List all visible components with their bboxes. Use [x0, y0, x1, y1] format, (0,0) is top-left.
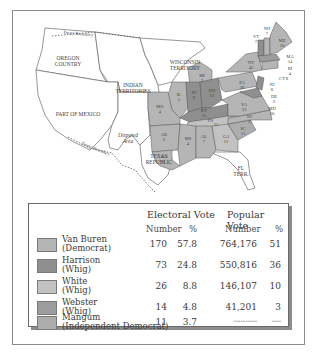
candidate-harrison: Harrison(Whig) — [62, 256, 100, 274]
state-ev-nj: 8 — [271, 87, 274, 92]
state-ev-vt: 7 — [255, 39, 258, 44]
pv-percent: 51 — [265, 239, 281, 249]
state-vt — [258, 40, 264, 56]
pv-percent: 36 — [265, 260, 281, 270]
state-ev-nc: 15 — [248, 119, 253, 124]
legend-row-white: White(Whig) 26 8.8 146,107 10 — [29, 278, 288, 298]
label-texas-2: REPUBLIC — [146, 159, 173, 165]
ev-number: 170 — [147, 239, 167, 249]
candidate-white: White(Whig) — [62, 277, 91, 295]
ev-number: 14 — [147, 302, 167, 312]
state-ev-de: 3 — [273, 99, 276, 104]
pv-percent: 3 — [265, 302, 281, 312]
pv-percent: 10 — [265, 281, 281, 291]
legend-row-harrison: Harrison(Whig) 73 24.8 550,816 36 — [29, 257, 288, 277]
pv-number: ---------- — [217, 317, 257, 325]
swatch-van-buren — [37, 238, 57, 252]
ev-percent: 3.7 — [175, 317, 197, 327]
pv-number: 550,816 — [217, 260, 257, 270]
state-ev-ga: 11 — [224, 139, 229, 144]
state-ev-me: 10 — [280, 43, 285, 48]
ev-percent: 24.8 — [175, 260, 197, 270]
state-nj — [256, 76, 264, 90]
state-ev-ri: 4 — [289, 71, 292, 76]
state-ev-sc: 11 — [241, 131, 246, 136]
state-ev-md: 10 — [270, 111, 275, 116]
state-ev-va: 23 — [242, 107, 247, 112]
state-label-ct: CT — [279, 76, 285, 81]
state-ev-ct: 8 — [286, 76, 289, 81]
swatch-white — [37, 280, 57, 294]
state-pa — [218, 72, 258, 92]
mexico-region — [36, 70, 118, 150]
ev-percent: 4.8 — [175, 302, 197, 312]
legend-row-mangum: Mangum(Independent Democrat) 11 3.7 ----… — [29, 314, 288, 334]
header-electoral-vote: Electoral Vote — [147, 209, 215, 220]
state-ev-pa: 30 — [240, 85, 245, 90]
pv-number: 764,176 — [217, 239, 257, 249]
label-florida-2: TERR. — [233, 171, 249, 177]
state-ev-tn: 15 — [214, 122, 219, 127]
swatch-mangum — [37, 316, 57, 330]
subheader-ev-percent: % — [189, 224, 197, 234]
subheader-ev-number: Number — [146, 224, 182, 234]
state-ct-ri — [262, 60, 278, 70]
subheader-pv-percent: % — [275, 224, 283, 234]
label-indian-2: TERRITORIES — [115, 88, 150, 94]
legend-table: Electoral Vote Popular Vote Number % Num… — [28, 203, 289, 327]
subheader-pv-number: Number — [225, 224, 261, 234]
state-ev-ky: 15 — [202, 113, 207, 118]
state-ev-oh: 21 — [210, 93, 215, 98]
label-mexico: PART OF MEXICO — [56, 111, 101, 117]
ev-number: 73 — [147, 260, 167, 270]
swatch-webster — [37, 301, 57, 315]
state-ev-ny: 42 — [249, 65, 254, 70]
label-oregon-2: COUNTRY — [55, 61, 81, 67]
ev-number: 26 — [147, 281, 167, 291]
label-wisconsin-2: TERRITORY — [170, 65, 200, 71]
state-ev-nh: 7 — [266, 31, 269, 36]
ev-percent: 57.8 — [175, 239, 197, 249]
election-map: OREGON COUNTRY WISCONSIN TERRITORY INDIA… — [13, 11, 304, 211]
pv-number: 41,201 — [217, 302, 257, 312]
label-disputed-2: Area — [122, 138, 134, 144]
legend-row-van-buren: Van Buren(Democrat) 170 57.8 764,176 51 — [29, 236, 288, 256]
state-ev-ma: 14 — [288, 59, 293, 64]
state-ny — [226, 52, 262, 72]
pv-number: 146,107 — [217, 281, 257, 291]
ev-percent: 8.8 — [175, 281, 197, 291]
swatch-harrison — [37, 259, 57, 273]
candidate-van-buren: Van Buren(Democrat) — [62, 235, 111, 253]
ev-number: 11 — [147, 317, 167, 327]
pv-percent: ---- — [265, 317, 281, 325]
